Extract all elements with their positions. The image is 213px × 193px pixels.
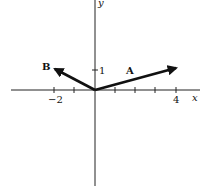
vector-b-arrow: [55, 69, 95, 90]
vector-b-label: B: [42, 61, 50, 72]
x-axis-label: x: [192, 92, 198, 103]
tick-label-y1: 1: [99, 65, 105, 76]
tick-label-4: 4: [173, 94, 179, 105]
vector-a-label: A: [125, 65, 134, 76]
tick-label-neg2: −2: [48, 94, 63, 105]
y-axis-label: y: [97, 0, 104, 8]
vector-diagram: y x −2 4 1 A B: [0, 0, 213, 193]
vector-a-arrow: [95, 68, 176, 90]
